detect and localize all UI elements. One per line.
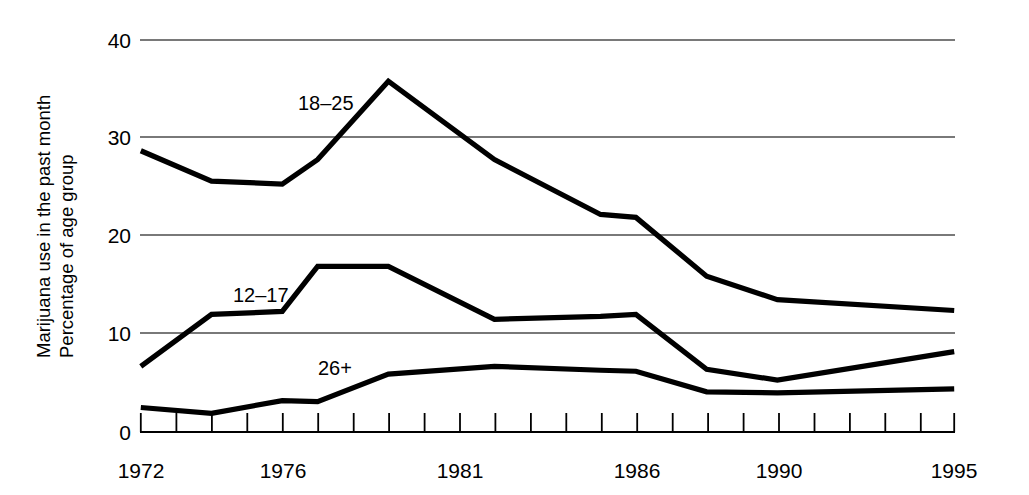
chart-figure: 40 30 20 10 0 <box>0 0 1029 495</box>
y-axis-title-line1: Marijuana use in the past month <box>33 95 54 358</box>
x-tick-label-1981: 1981 <box>437 459 484 482</box>
y-tick-label-20: 20 <box>108 224 131 247</box>
x-tick-label-1972: 1972 <box>118 459 165 482</box>
y-tick-label-40: 40 <box>108 29 131 52</box>
series-label-18-25: 18–25 <box>298 92 354 114</box>
x-axis-ticks <box>176 413 920 432</box>
series-label-12-17: 12–17 <box>233 284 289 306</box>
y-tick-label-0: 0 <box>119 421 131 444</box>
axis-spines <box>140 413 955 432</box>
y-axis-tick-labels: 40 30 20 10 0 <box>108 29 131 444</box>
y-tick-label-10: 10 <box>108 322 131 345</box>
line-chart: 40 30 20 10 0 <box>0 0 1029 495</box>
x-axis-tick-labels: 1972 1976 1981 1986 1990 1995 <box>118 459 978 482</box>
y-tick-label-30: 30 <box>108 126 131 149</box>
series-label-26plus: 26+ <box>318 357 352 379</box>
x-tick-label-1995: 1995 <box>931 459 978 482</box>
series-line-18-25-path <box>141 81 954 310</box>
data-series <box>141 81 954 413</box>
x-tick-label-1990: 1990 <box>756 459 803 482</box>
y-axis-title-line2: Percentage of age group <box>56 154 77 358</box>
x-tick-label-1976: 1976 <box>260 459 307 482</box>
x-tick-label-1986: 1986 <box>614 459 661 482</box>
y-axis-title: Marijuana use in the past month Percenta… <box>33 95 77 358</box>
